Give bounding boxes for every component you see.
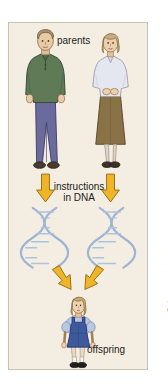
label-offspring: offspring bbox=[87, 344, 125, 355]
mother-figure bbox=[93, 34, 128, 168]
label-instructions-in-dna: instructionsin DNA bbox=[42, 181, 116, 203]
label-parents: parents bbox=[57, 35, 90, 46]
label-instructions-line2: in DNA bbox=[42, 192, 116, 203]
illustration-panel: parents instructionsin DNA offspring bbox=[8, 22, 148, 370]
arrow-converge-left bbox=[52, 266, 71, 290]
dna-helix-left bbox=[21, 208, 68, 268]
dna-helix-right bbox=[88, 208, 135, 268]
figure-root: parents instructionsin DNA offspring © C… bbox=[0, 0, 168, 390]
father-figure bbox=[26, 30, 65, 169]
copyright-notice: © Cengage Learning bbox=[167, 244, 168, 312]
arrow-converge-right bbox=[85, 266, 104, 290]
child-figure bbox=[62, 297, 96, 367]
label-instructions-line1: instructions bbox=[54, 181, 105, 192]
